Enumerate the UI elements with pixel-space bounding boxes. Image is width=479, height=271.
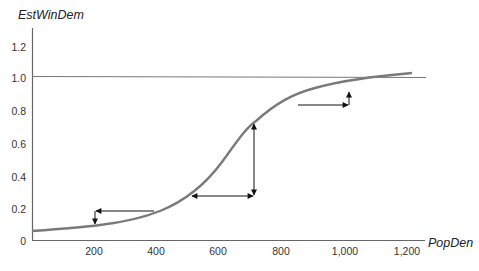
chart: EstWinDem PopDen 1.2 1.0 0.8 0.6 0.4 0.2… xyxy=(0,0,479,271)
s-curve xyxy=(32,73,412,231)
plot-area xyxy=(0,0,479,271)
